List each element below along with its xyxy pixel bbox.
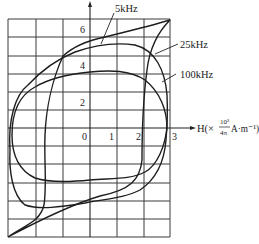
x-axis-label-suffix: A·m⁻¹): [231, 123, 259, 135]
x-axis-label-numerator: 10³: [220, 118, 229, 126]
label-5khz: 5kHz: [115, 3, 138, 14]
x-axis-label-prefix: H(×: [197, 123, 214, 135]
x-axis-label-denominator: 4π: [220, 129, 228, 137]
y-tick-2: 2: [80, 97, 85, 108]
x-axis-label: H(× 10³ 4π A·m⁻¹): [197, 118, 259, 137]
x-tick-2: 2: [136, 131, 141, 142]
x-tick-3: 3: [172, 131, 177, 142]
x-tick-0: 0: [82, 131, 87, 142]
y-tick-4: 4: [80, 60, 85, 71]
leader-25khz: [155, 44, 178, 54]
hysteresis-chart: 6 4 2 0 1 2 3 5kHz 25kHz 100kHz H(× 10³ …: [0, 0, 259, 244]
leader-5khz: [101, 13, 114, 44]
label-25khz: 25kHz: [180, 39, 208, 50]
y-tick-6: 6: [80, 24, 85, 35]
label-100khz: 100kHz: [180, 69, 214, 80]
x-tick-1: 1: [109, 131, 114, 142]
